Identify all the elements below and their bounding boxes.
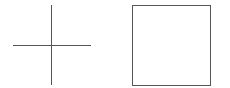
cross-horizontal-line bbox=[13, 45, 91, 46]
square-shape bbox=[132, 5, 211, 86]
diagram-canvas bbox=[0, 0, 230, 88]
